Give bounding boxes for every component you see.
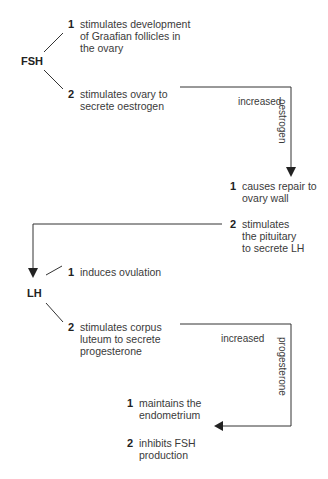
effect-number: 1 <box>68 18 74 30</box>
increased-label: increased <box>221 333 264 344</box>
fsh-effect-2: 2 stimulates ovary to secrete oestrogen <box>68 88 188 116</box>
effect-number: 1 <box>230 180 236 192</box>
effect-text: induces ovulation <box>80 266 161 278</box>
oestrogen-effect-2: 2 stimulates the pituitary to secrete LH <box>230 218 328 258</box>
effect-text: stimulates ovary to <box>80 88 168 100</box>
effect-text: of Graafian follicles in <box>80 30 190 42</box>
lh-label: LH <box>27 287 42 299</box>
progesterone-effect-1: 1 maintains the endometrium <box>127 397 227 425</box>
increased-label: increased <box>238 96 281 107</box>
effect-text: production <box>139 449 196 461</box>
effect-text: ovary wall <box>242 192 317 204</box>
effect-text: maintains the <box>139 397 201 409</box>
effect-number: 1 <box>127 397 133 409</box>
oestrogen-label: oestrogen <box>277 99 288 143</box>
effect-text: causes repair to <box>242 180 317 192</box>
effect-text: stimulates development <box>80 18 190 30</box>
effect-text: secrete oestrogen <box>80 100 168 112</box>
oestrogen-effect-1: 1 causes repair to ovary wall <box>230 180 328 208</box>
fsh-label: FSH <box>21 55 43 67</box>
lh-effect-1: 1 induces ovulation <box>68 266 188 280</box>
effect-text: the pituitary <box>242 230 304 242</box>
effect-text: the ovary <box>80 42 190 54</box>
progesterone-label: progesterone <box>277 337 288 396</box>
effect-number: 2 <box>68 88 74 100</box>
effect-text: stimulates <box>242 218 304 230</box>
effect-text: endometrium <box>139 409 201 421</box>
effect-number: 1 <box>68 266 74 278</box>
effect-text: stimulates corpus <box>80 321 162 333</box>
effect-text: to secrete LH <box>242 242 304 254</box>
effect-number: 2 <box>230 218 236 230</box>
fsh-effect-1: 1 stimulates development of Graafian fol… <box>68 18 188 58</box>
progesterone-effect-2: 2 inhibits FSH production <box>127 437 227 465</box>
effect-text: inhibits FSH <box>139 437 196 449</box>
lh-effect-2: 2 stimulates corpus luteum to secrete pr… <box>68 321 188 361</box>
effect-text: luteum to secrete <box>80 333 162 345</box>
effect-number: 2 <box>68 321 74 333</box>
effect-text: progesterone <box>80 345 162 357</box>
effect-number: 2 <box>127 437 133 449</box>
